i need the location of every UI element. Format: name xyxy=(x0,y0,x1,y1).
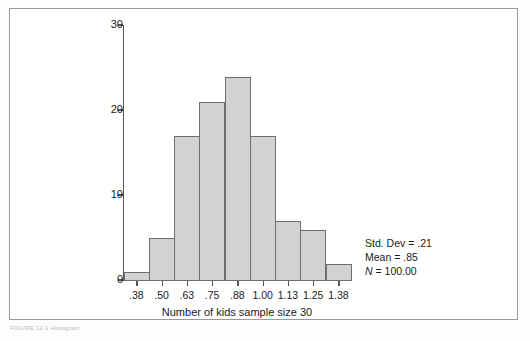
figure-frame: 0102030 .38.50.63.75.881.001.131.251.38 … xyxy=(9,8,518,320)
x-axis-tick xyxy=(288,281,289,286)
histogram-plot-area: 0102030 .38.50.63.75.881.001.131.251.38 … xyxy=(10,9,519,321)
histogram-bar xyxy=(250,136,276,281)
y-axis-tick-label-text: 30 xyxy=(87,19,123,30)
mean-text: Mean = .85 xyxy=(365,251,432,265)
x-axis-tick xyxy=(237,281,238,286)
y-axis-tick-label: 20 xyxy=(72,104,123,115)
x-axis-tick xyxy=(136,281,137,286)
figure-root: 0102030 .38.50.63.75.881.001.131.251.38 … xyxy=(0,0,530,341)
y-axis-line xyxy=(123,25,124,281)
histogram-bar xyxy=(174,136,200,281)
x-axis-tick xyxy=(162,281,163,286)
figure-caption: FIGURE 12-1 Histogram xyxy=(10,326,80,331)
std-dev-text: Std. Dev = .21 xyxy=(365,237,432,251)
histogram-bar xyxy=(124,272,150,281)
n-symbol: N xyxy=(365,265,373,277)
histogram-bar xyxy=(300,230,326,281)
y-axis-tick-label-text: 0 xyxy=(87,274,123,285)
y-axis-tick-label: 10 xyxy=(72,189,123,200)
n-text: N = 100.00 xyxy=(365,265,432,279)
histogram-bar xyxy=(275,221,301,281)
y-axis-tick-label: 0 xyxy=(72,274,123,285)
statistics-annotation: Std. Dev = .21 Mean = .85 N = 100.00 xyxy=(365,237,432,279)
histogram-bar xyxy=(149,238,175,281)
x-axis-title: Number of kids sample size 30 xyxy=(123,306,351,318)
y-axis-tick-label-text: 20 xyxy=(87,104,123,115)
x-axis-tick xyxy=(263,281,264,286)
histogram-bar xyxy=(225,77,251,281)
histogram-bar xyxy=(326,264,352,281)
x-axis-tick xyxy=(187,281,188,286)
y-axis-tick-label: 30 xyxy=(72,19,123,30)
x-axis-tick xyxy=(212,281,213,286)
x-axis-tick-label: 1.38 xyxy=(321,290,355,301)
caption-strip: FIGURE 12-1 Histogram xyxy=(0,326,530,341)
x-axis-tick xyxy=(338,281,339,286)
x-axis-tick xyxy=(313,281,314,286)
histogram-bar xyxy=(199,102,225,281)
y-axis-tick-label-text: 10 xyxy=(87,189,123,200)
n-value: = 100.00 xyxy=(373,265,417,277)
